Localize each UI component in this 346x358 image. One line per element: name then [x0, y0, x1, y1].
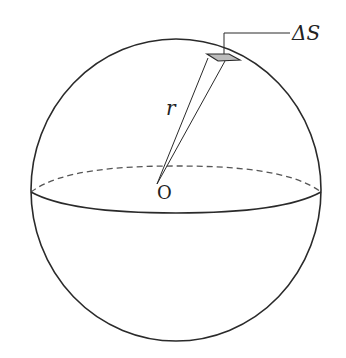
center-label: O [157, 182, 172, 203]
area-element-label: ΔS [291, 21, 320, 45]
radius-label: r [166, 96, 177, 120]
radius-line-left [157, 58, 208, 184]
equator-front [31, 192, 321, 213]
equator-back-dashed [31, 166, 321, 192]
sphere-diagram: ΔS r O [0, 0, 346, 358]
surface-element-patch [207, 54, 240, 61]
sphere-outline [31, 39, 321, 341]
